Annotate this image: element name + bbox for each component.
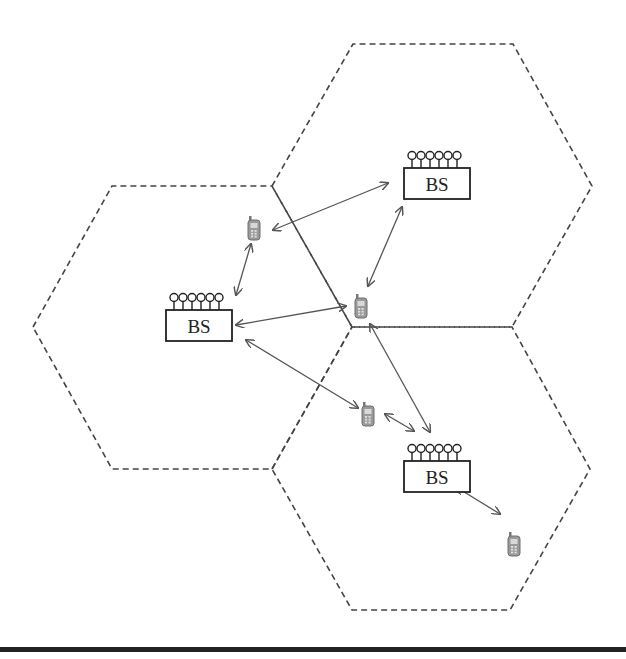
mobile-phone-icon — [362, 402, 374, 426]
bidirectional-arrow-link-1 — [273, 183, 388, 230]
mobile-phone-icon — [508, 532, 520, 556]
bidirectional-arrow-link-6 — [370, 324, 430, 432]
base-station-label: BS — [425, 467, 448, 488]
bidirectional-arrow-link-4 — [236, 306, 346, 325]
antenna-array-icon — [408, 445, 461, 462]
mobile-phones — [248, 216, 520, 556]
antenna-array-icon — [170, 294, 223, 311]
base-station-label: BS — [187, 316, 210, 337]
cell-boundaries — [33, 44, 592, 610]
bs-top-right: BS — [404, 152, 470, 200]
mobile-phone-icon — [248, 216, 260, 240]
bidirectional-arrow-link-7 — [385, 414, 414, 431]
bidirectional-arrow-link-2 — [236, 244, 251, 295]
bidirectional-arrow-link-3 — [368, 207, 402, 286]
base-stations: BSBSBS — [166, 152, 470, 493]
bs-bottom-right: BS — [404, 445, 470, 493]
antenna-array-icon — [408, 152, 461, 169]
bottom-rule — [0, 647, 626, 652]
network-diagram: BSBSBS — [0, 0, 626, 659]
bs-left: BS — [166, 294, 232, 342]
base-station-label: BS — [425, 174, 448, 195]
mobile-phone-icon — [355, 294, 367, 318]
bidirectional-arrow-link-5 — [246, 340, 358, 408]
